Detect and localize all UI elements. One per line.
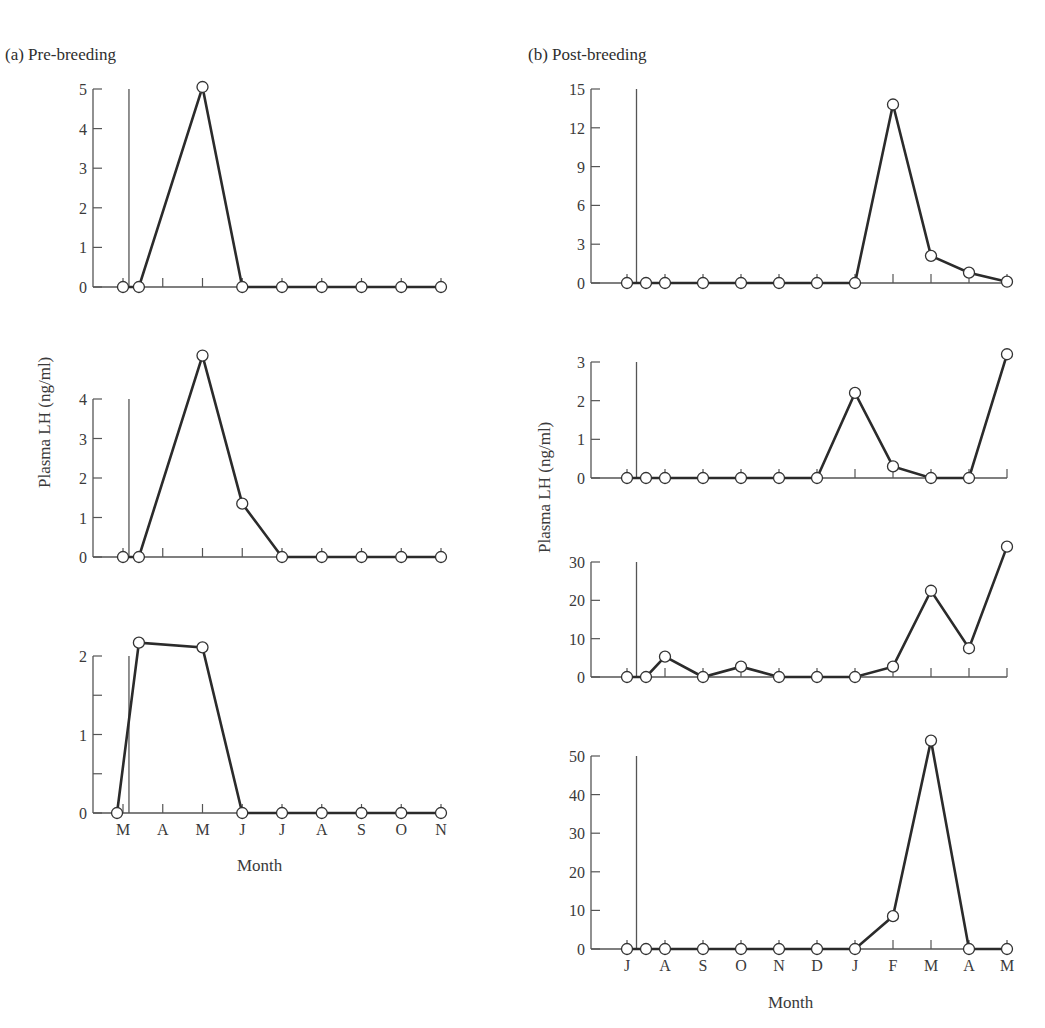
y-tick-label: 1	[79, 239, 87, 256]
y-tick-label: 0	[577, 941, 585, 958]
data-point-marker	[316, 282, 327, 293]
data-series-line	[627, 354, 1007, 478]
x-tick-label: M	[195, 821, 209, 838]
data-point-marker	[736, 661, 747, 672]
y-tick-label: 4	[79, 391, 87, 408]
data-point-marker	[197, 350, 208, 361]
data-point-marker	[964, 643, 975, 654]
data-point-marker	[396, 808, 407, 819]
y-tick-label: 20	[569, 864, 585, 881]
chart-panel-b2: 0123	[577, 349, 1013, 487]
data-point-marker	[850, 387, 861, 398]
data-point-marker	[396, 552, 407, 563]
y-tick-label: 0	[79, 805, 87, 822]
data-point-marker	[736, 473, 747, 484]
data-point-marker	[888, 99, 899, 110]
y-tick-label: 0	[577, 470, 585, 487]
data-series-line	[123, 87, 441, 287]
data-point-marker	[850, 672, 861, 683]
x-tick-label: A	[963, 957, 975, 974]
x-tick-label: O	[395, 821, 407, 838]
data-point-marker	[641, 278, 652, 289]
x-tick-label: N	[435, 821, 447, 838]
data-point-marker	[660, 278, 671, 289]
data-point-marker	[197, 82, 208, 93]
data-point-marker	[926, 735, 937, 746]
x-tick-label: J	[624, 957, 630, 974]
data-series-line	[627, 741, 1007, 949]
data-point-marker	[926, 473, 937, 484]
data-series-line	[627, 105, 1007, 283]
chart-panel-a3: 012MAMJJASON	[79, 637, 447, 838]
data-point-marker	[1002, 944, 1013, 955]
chart-panel-b4: 01020304050JASONDJFMAM	[569, 735, 1014, 974]
x-tick-label: M	[1000, 957, 1014, 974]
y-tick-label: 9	[577, 159, 585, 176]
y-tick-label: 20	[569, 592, 585, 609]
y-tick-label: 0	[79, 279, 87, 296]
x-tick-label: J	[852, 957, 858, 974]
data-point-marker	[812, 944, 823, 955]
y-tick-label: 50	[569, 748, 585, 765]
data-point-marker	[698, 278, 709, 289]
x-tick-label: S	[357, 821, 366, 838]
data-point-marker	[197, 642, 208, 653]
data-point-marker	[774, 473, 785, 484]
y-tick-label: 0	[577, 275, 585, 292]
y-tick-label: 12	[569, 120, 585, 137]
data-point-marker	[1002, 541, 1013, 552]
data-point-marker	[812, 278, 823, 289]
y-tick-label: 40	[569, 787, 585, 804]
data-point-marker	[316, 808, 327, 819]
data-point-marker	[888, 461, 899, 472]
data-point-marker	[660, 651, 671, 662]
data-point-marker	[118, 282, 129, 293]
data-point-marker	[356, 282, 367, 293]
chart-panel-a1: 012345	[79, 81, 447, 296]
data-series-line	[123, 356, 441, 557]
y-tick-label: 3	[577, 236, 585, 253]
y-tick-label: 6	[577, 197, 585, 214]
x-tick-label: J	[279, 821, 285, 838]
y-tick-label: 2	[79, 648, 87, 665]
x-tick-label: N	[773, 957, 785, 974]
data-point-marker	[316, 552, 327, 563]
data-series-line	[117, 643, 441, 813]
y-tick-label: 2	[79, 200, 87, 217]
y-tick-label: 1	[79, 727, 87, 744]
data-point-marker	[133, 282, 144, 293]
figure-canvas: 01234501234012MAMJJASON03691215012301020…	[0, 0, 1045, 1028]
data-point-marker	[926, 250, 937, 261]
x-tick-label: D	[811, 957, 823, 974]
data-point-marker	[356, 552, 367, 563]
data-point-marker	[237, 808, 248, 819]
chart-panel-a2: 01234	[79, 350, 447, 566]
data-point-marker	[774, 944, 785, 955]
x-tick-label: S	[699, 957, 708, 974]
x-tick-label: J	[239, 821, 245, 838]
data-point-marker	[812, 473, 823, 484]
data-point-marker	[698, 672, 709, 683]
chart-panel-b1: 03691215	[569, 81, 1013, 292]
y-tick-label: 10	[569, 631, 585, 648]
data-point-marker	[850, 278, 861, 289]
data-point-marker	[133, 552, 144, 563]
data-point-marker	[436, 808, 447, 819]
data-point-marker	[277, 552, 288, 563]
data-series-line	[627, 547, 1007, 677]
data-point-marker	[736, 278, 747, 289]
data-point-marker	[1002, 349, 1013, 360]
data-point-marker	[926, 585, 937, 596]
y-tick-label: 2	[79, 470, 87, 487]
data-point-marker	[356, 808, 367, 819]
data-point-marker	[622, 473, 633, 484]
data-point-marker	[237, 282, 248, 293]
x-tick-label: A	[316, 821, 328, 838]
data-point-marker	[112, 808, 123, 819]
data-point-marker	[736, 944, 747, 955]
data-point-marker	[277, 282, 288, 293]
data-point-marker	[277, 808, 288, 819]
y-tick-label: 3	[79, 431, 87, 448]
data-point-marker	[641, 672, 652, 683]
y-tick-label: 4	[79, 121, 87, 138]
